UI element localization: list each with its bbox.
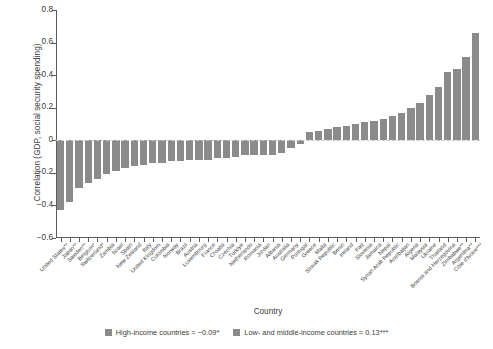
bar <box>407 108 414 141</box>
bar <box>177 140 184 161</box>
x-tick-mark <box>208 238 209 242</box>
bar <box>453 69 460 141</box>
bar <box>112 140 119 171</box>
x-tick-mark <box>116 238 117 242</box>
x-tick-mark <box>236 238 237 242</box>
x-tick-mark <box>291 238 292 242</box>
bar <box>260 140 267 155</box>
bar <box>370 121 377 141</box>
bar <box>444 72 451 140</box>
bar <box>241 140 248 155</box>
bar <box>389 116 396 140</box>
x-tick-mark <box>365 238 366 242</box>
y-tick-label: 0.8 <box>42 5 53 14</box>
bar <box>94 140 101 179</box>
legend-swatch-icon <box>105 329 112 336</box>
x-tick-mark <box>199 238 200 242</box>
x-tick-mark <box>217 238 218 242</box>
x-tick-mark <box>134 238 135 242</box>
x-tick-mark <box>466 238 467 242</box>
x-tick-mark <box>383 238 384 242</box>
x-tick-mark <box>97 238 98 242</box>
chart-legend: High-income countries = −0.09*Low- and m… <box>0 328 493 337</box>
bar <box>57 140 64 210</box>
x-tick-mark <box>180 238 181 242</box>
bar <box>426 95 433 141</box>
bar <box>380 119 387 140</box>
x-tick-mark <box>153 238 154 242</box>
y-tick-label: −0.4 <box>37 200 53 209</box>
x-tick-mark <box>309 238 310 242</box>
bar <box>324 129 331 140</box>
x-tick-mark <box>429 238 430 242</box>
x-tick-mark <box>125 238 126 242</box>
x-tick-mark <box>273 238 274 242</box>
bar <box>103 140 110 174</box>
bar <box>269 140 276 155</box>
bar <box>75 140 82 187</box>
bar <box>416 103 423 140</box>
bar <box>232 140 239 156</box>
x-tick-mark <box>356 238 357 242</box>
x-tick-mark <box>254 238 255 242</box>
legend-label: Low- and middle-income countries = 0.13*… <box>244 328 388 337</box>
x-axis-tick-labels: United States**Japan**Sweden**Belgium*Sw… <box>56 243 480 305</box>
x-tick-mark <box>475 238 476 242</box>
x-tick-mark <box>227 238 228 242</box>
y-tick-label: −0.2 <box>37 167 53 176</box>
x-tick-mark <box>263 238 264 242</box>
y-tick-label: 0.2 <box>42 102 53 111</box>
bar <box>214 140 221 158</box>
legend-swatch-icon <box>233 329 240 336</box>
x-tick-mark <box>319 238 320 242</box>
bar <box>315 131 322 141</box>
x-tick-mark <box>374 238 375 242</box>
bar <box>66 140 73 202</box>
legend-item[interactable]: High-income countries = −0.09* <box>105 328 220 337</box>
x-tick-mark <box>171 238 172 242</box>
bar <box>158 140 165 163</box>
bar <box>204 140 211 160</box>
bar <box>361 122 368 140</box>
bar <box>333 127 340 140</box>
zero-reference-line <box>56 140 480 142</box>
x-tick-mark <box>70 238 71 242</box>
bar <box>343 126 350 141</box>
bar <box>168 140 175 161</box>
bar <box>140 140 147 164</box>
bar <box>149 140 156 163</box>
x-tick-mark <box>245 238 246 242</box>
x-tick-mark <box>282 238 283 242</box>
chart-figure: Correlation (GDP, social security spendi… <box>0 0 493 349</box>
bar <box>472 33 479 140</box>
bar <box>306 132 313 140</box>
bar <box>131 140 138 166</box>
bar <box>195 140 202 160</box>
y-tick-label: 0.4 <box>42 70 53 79</box>
x-tick-mark <box>144 238 145 242</box>
legend-item[interactable]: Low- and middle-income countries = 0.13*… <box>233 328 388 337</box>
x-tick-mark <box>392 238 393 242</box>
x-tick-mark <box>190 238 191 242</box>
y-tick-label: −0.6 <box>37 233 53 242</box>
x-tick-mark <box>88 238 89 242</box>
x-tick-mark <box>439 238 440 242</box>
x-tick-mark <box>448 238 449 242</box>
y-tick-label: 0.6 <box>42 37 53 46</box>
bar <box>462 57 469 140</box>
bar <box>121 140 128 168</box>
x-tick-mark <box>337 238 338 242</box>
x-tick-mark <box>457 238 458 242</box>
x-tick-mark <box>346 238 347 242</box>
x-tick-mark <box>402 238 403 242</box>
bar <box>250 140 257 155</box>
x-tick-mark <box>328 238 329 242</box>
bar <box>186 140 193 160</box>
plot-area: −0.6−0.4−0.200.20.40.60.8 <box>56 10 480 238</box>
x-tick-mark <box>79 238 80 242</box>
bar <box>85 140 92 182</box>
x-tick-mark <box>411 238 412 242</box>
y-tick-label: 0 <box>48 135 53 144</box>
x-tick-mark <box>107 238 108 242</box>
bar-series <box>56 10 480 238</box>
